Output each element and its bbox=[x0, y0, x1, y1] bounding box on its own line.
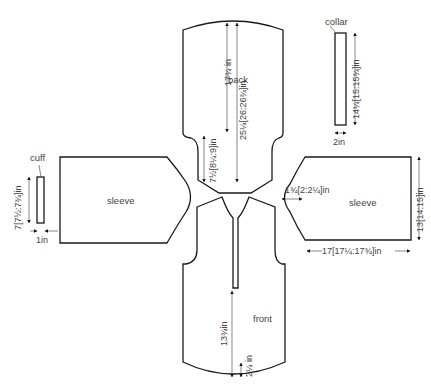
front-hem-dim: 2¼ in bbox=[244, 355, 254, 377]
front-piece: front 13¾in 2¼ in bbox=[183, 197, 285, 377]
pattern-diagram: back 17¾ in 25¼[26:26¾]in 7½[8¼:9]in col… bbox=[0, 0, 431, 384]
cuff-length-dim: 7[7½:7¾]in bbox=[13, 185, 23, 230]
front-label: front bbox=[253, 313, 272, 324]
back-piece: back 17¾ in 25¼[26:26¾]in 7½[8¼:9]in bbox=[183, 21, 283, 193]
back-armhole-dim: 17¾ in bbox=[223, 59, 233, 86]
collar-piece: collar 14¼[15:15¾]in 2in bbox=[325, 16, 361, 147]
sleeve-width-dim: 13[14:15]in bbox=[415, 187, 425, 232]
cuff-label: cuff bbox=[30, 152, 46, 163]
sleeve-left-label: sleeve bbox=[107, 195, 134, 206]
sleeve-right-label: sleeve bbox=[349, 197, 376, 208]
back-length-dim: 25¼[26:26¾]in bbox=[238, 80, 248, 140]
sleeve-length-dim: 17[17¼:17¾]in bbox=[322, 246, 382, 256]
sleeve-cap-dim: 1¾[2:2¼]in bbox=[285, 185, 330, 195]
sleeve-right-piece: sleeve 1¾[2:2¼]in 13[14:15]in 17[17¼:17¾… bbox=[282, 157, 425, 256]
collar-width-dim: 2in bbox=[333, 137, 345, 147]
back-lower-dim: 7½[8¼:9]in bbox=[208, 138, 218, 183]
front-placket-dim: 13¾in bbox=[219, 321, 229, 346]
cuff-width-dim: 1in bbox=[36, 235, 48, 245]
cuff-piece: cuff 7[7½:7¾]in 1in bbox=[13, 152, 58, 245]
collar-length-dim: 14¼[15:15¾]in bbox=[351, 59, 361, 119]
collar-label: collar bbox=[325, 16, 348, 27]
sleeve-left-piece: sleeve bbox=[60, 157, 191, 243]
